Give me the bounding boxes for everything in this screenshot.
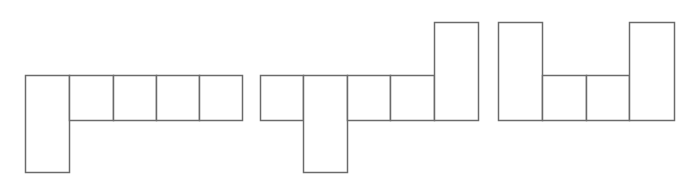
- tall-rectangle-cell: [304, 76, 348, 173]
- square-cell: [114, 76, 157, 121]
- net-shape-3: [499, 23, 675, 121]
- square-cell: [157, 76, 200, 121]
- square-cell: [70, 76, 114, 121]
- tall-rectangle-cell: [630, 23, 675, 121]
- tall-rectangle-cell: [26, 76, 70, 173]
- square-cell: [200, 76, 243, 121]
- square-cell: [391, 76, 435, 121]
- net-shape-2: [261, 23, 479, 173]
- square-cell: [543, 76, 587, 121]
- square-cell: [261, 76, 304, 121]
- tall-rectangle-cell: [499, 23, 543, 121]
- tall-rectangle-cell: [435, 23, 479, 121]
- square-cell: [348, 76, 391, 121]
- diagram-canvas: [0, 0, 700, 191]
- net-shape-1: [26, 76, 243, 173]
- square-cell: [587, 76, 630, 121]
